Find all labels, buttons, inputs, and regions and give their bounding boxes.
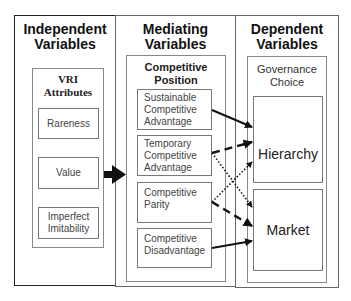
- connection-arrows: [0, 0, 351, 301]
- vri-to-position-arrow: [104, 165, 126, 184]
